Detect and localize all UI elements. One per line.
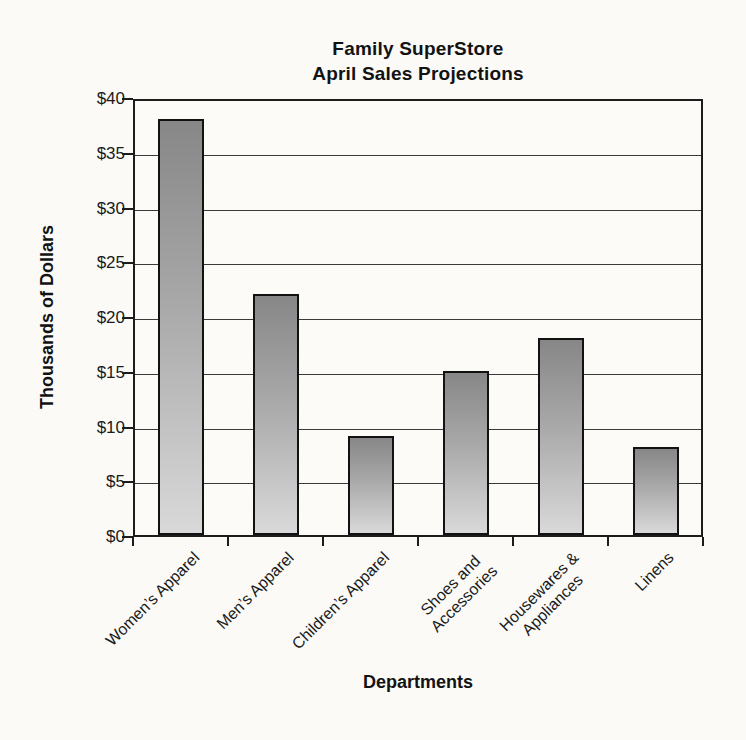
gridline	[135, 374, 701, 375]
x-tick-mark	[607, 537, 609, 546]
x-category-label: Housewares &Appliances	[496, 548, 596, 648]
x-category-label: Children’s Apparel	[288, 548, 393, 653]
x-tick-mark	[417, 537, 419, 546]
bar-5	[538, 338, 584, 535]
x-tick-mark	[702, 537, 704, 546]
x-category-label: Linens	[631, 548, 678, 595]
x-tick-mark	[227, 537, 229, 546]
gridline	[135, 319, 701, 320]
x-tick-mark	[512, 537, 514, 546]
x-category-label: Women’s Apparel	[101, 548, 203, 650]
y-tick-label: $20	[53, 308, 125, 328]
y-tick-label: $35	[53, 144, 125, 164]
y-tick-mark	[122, 98, 133, 100]
y-tick-label: $40	[53, 89, 125, 109]
y-tick-label: $5	[53, 472, 125, 492]
y-tick-label: $0	[53, 527, 125, 547]
gridline	[135, 210, 701, 211]
plot-area	[133, 99, 703, 537]
y-tick-mark	[122, 208, 133, 210]
y-tick-label: $10	[53, 418, 125, 438]
chart-title-line-2: April Sales Projections	[133, 61, 703, 86]
y-tick-mark	[122, 317, 133, 319]
bar-6	[633, 447, 679, 535]
x-tick-mark	[132, 537, 134, 546]
y-tick-label: $30	[53, 199, 125, 219]
gridline	[135, 483, 701, 484]
x-category-label: Shoes andAccessories	[414, 548, 502, 636]
chart-page: Family SuperStore April Sales Projection…	[0, 0, 746, 740]
bar-3	[348, 436, 394, 535]
x-tick-mark	[322, 537, 324, 546]
gridline	[135, 264, 701, 265]
chart-title-line-1: Family SuperStore	[133, 36, 703, 61]
y-tick-mark	[122, 262, 133, 264]
chart-title: Family SuperStore April Sales Projection…	[133, 36, 703, 86]
y-tick-mark	[122, 481, 133, 483]
y-tick-label: $25	[53, 253, 125, 273]
gridline	[135, 155, 701, 156]
x-category-label: Men’s Apparel	[213, 548, 298, 633]
y-tick-label: $15	[53, 363, 125, 383]
y-tick-mark	[122, 153, 133, 155]
bar-2	[253, 294, 299, 535]
gridline	[135, 429, 701, 430]
x-axis-title: Departments	[133, 672, 703, 693]
y-tick-mark	[122, 427, 133, 429]
bar-1	[158, 119, 204, 535]
y-tick-mark	[122, 372, 133, 374]
bar-4	[443, 371, 489, 535]
